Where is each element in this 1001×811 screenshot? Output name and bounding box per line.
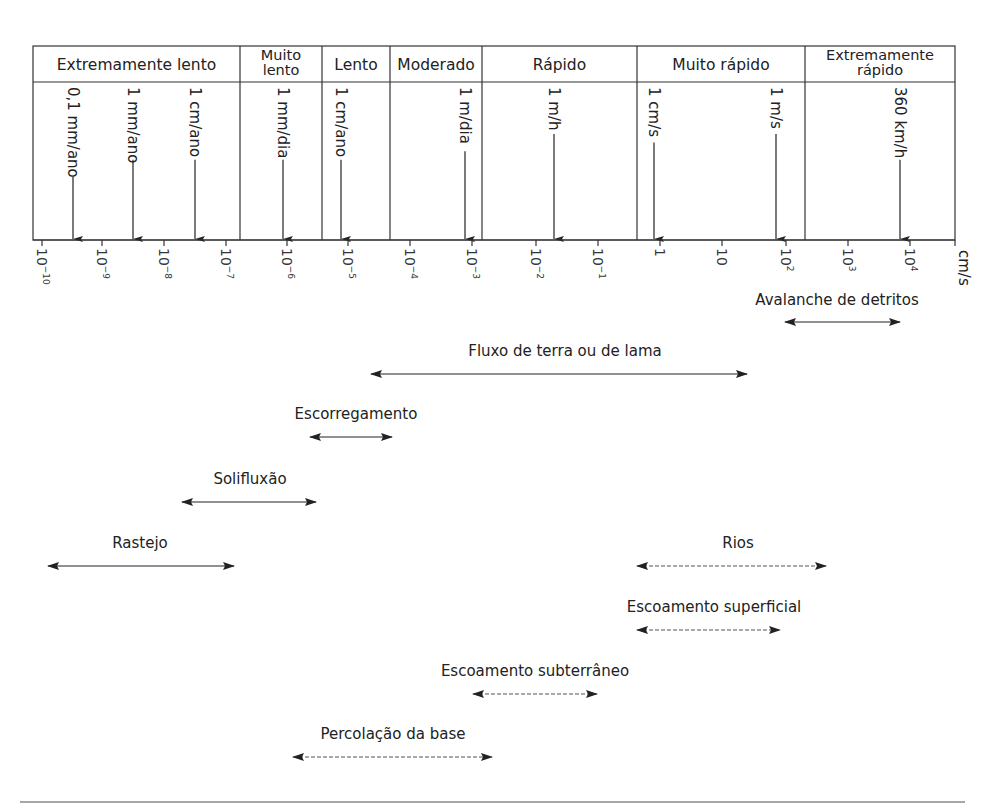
axis-tick: 10−1 [590,240,607,279]
process-label: Solifluxão [213,470,286,488]
axis-tick-label: 104 [902,248,919,272]
axis-tick: 10−4 [402,240,419,279]
process-label: Percolação da base [321,725,466,743]
axis-ticks: 10−1010−910−810−710−610−510−410−310−210−… [34,240,919,285]
process-label: Rios [722,534,754,552]
reference-speed: 1 cm/s [645,87,663,239]
axis-tick: 103 [840,240,857,272]
reference-speed-label: 1 m/dia [456,87,474,144]
speed-class-label: Moderado [397,56,474,74]
reference-speed-markers: 0,1 mm/ano1 mm/ano1 cm/ano1 mm/dia1 cm/a… [64,87,909,239]
axis-tick-label: 10−3 [464,248,481,279]
reference-speed-label: 1 mm/ano [124,87,142,163]
speed-class-label: rápido [857,62,903,78]
axis-tick: 10−5 [340,240,357,279]
axis-tick: 10−7 [218,240,235,279]
reference-speed-label: 1 cm/ano [332,87,350,157]
speed-class-label: Lento [334,56,377,74]
velocity-diagram: Extremamente lentoMuitolentoLentoModerad… [0,0,1001,811]
axis-tick-label: 10−1 [590,248,607,279]
axis-tick-label: 102 [778,248,795,272]
axis-tick: 10−10 [34,240,51,285]
process-label: Fluxo de terra ou de lama [468,342,661,360]
reference-speed: 1 cm/ano [332,87,350,239]
reference-speed: 0,1 mm/ano [64,87,82,239]
axis-tick-label: 10−9 [94,248,111,279]
axis-tick: 10−9 [94,240,111,279]
axis-tick-label: 10 [714,248,730,266]
speed-class-label: Muito [261,47,301,63]
axis-tick: 1 [652,240,668,257]
process-range: Escoamento subterrâneo [441,662,629,694]
speed-class-label: Extremamente [826,47,934,63]
table-outline [33,46,955,240]
process-label: Avalanche de detritos [755,291,919,309]
axis-tick-label: 1 [652,248,668,257]
reference-speed-label: 1 mm/dia [274,87,292,158]
reference-speed-label: 1 m/h [545,87,563,130]
reference-speed: 1 m/s [767,87,785,239]
axis-tick: 10 [714,240,730,266]
axis-tick-label: 10−5 [340,248,357,279]
process-ranges: Avalanche de detritosFluxo de terra ou d… [48,291,919,757]
process-range: Solifluxão [182,470,316,502]
reference-speed: 360 km/h [891,87,909,239]
axis-tick: 10−8 [156,240,173,279]
reference-speed-label: 0,1 mm/ano [64,87,82,178]
process-label: Escorregamento [295,405,418,423]
axis-tick: 104 [902,240,919,272]
axis-tick: 10−2 [528,240,545,279]
speed-class-label: lento [263,62,300,78]
speed-class-label: Extremamente lento [57,56,216,74]
column-dividers [240,46,805,240]
axis-unit-label: cm/s [955,250,973,286]
axis-tick: 10−3 [464,240,481,279]
axis-tick: 10−6 [279,240,296,279]
process-range: Rios [637,534,826,566]
process-range: Avalanche de detritos [755,291,919,322]
speed-class-table: Extremamente lentoMuitolentoLentoModerad… [33,46,955,240]
speed-class-label: Rápido [533,56,586,74]
process-label: Escoamento superficial [627,598,802,616]
process-label: Escoamento subterrâneo [441,662,629,680]
process-range: Percolação da base [293,725,492,757]
speed-class-label: Muito rápido [672,56,769,74]
reference-speed: 1 m/dia [456,87,474,239]
axis-tick-label: 10−6 [279,248,296,279]
column-headers: Extremamente lentoMuitolentoLentoModerad… [57,47,934,78]
reference-speed: 1 mm/dia [274,87,292,239]
velocity-axis: 10−1010−910−810−710−610−510−410−310−210−… [33,240,973,286]
axis-tick-label: 10−8 [156,248,173,279]
axis-tick-label: 10−7 [218,248,235,279]
reference-speed-label: 1 m/s [767,87,785,129]
reference-speed: 1 cm/ano [186,87,204,239]
reference-speed: 1 mm/ano [124,87,142,239]
process-label: Rastejo [112,534,168,552]
reference-speed-label: 360 km/h [891,87,909,158]
process-range: Escoamento superficial [627,598,802,630]
axis-tick: 102 [778,240,795,272]
reference-speed-label: 1 cm/s [645,87,663,137]
process-range: Escorregamento [295,405,418,437]
axis-tick-label: 10−10 [34,248,51,285]
process-range: Rastejo [48,534,234,566]
reference-speed: 1 m/h [545,87,563,239]
axis-tick-label: 10−2 [528,248,545,279]
reference-speed-label: 1 cm/ano [186,87,204,157]
axis-tick-label: 10−4 [402,248,419,279]
axis-tick-label: 103 [840,248,857,272]
process-range: Fluxo de terra ou de lama [371,342,747,374]
